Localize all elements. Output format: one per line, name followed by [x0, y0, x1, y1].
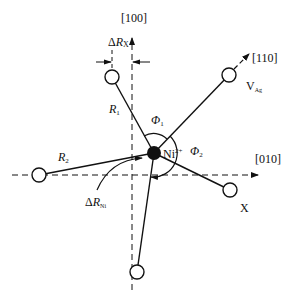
label-phi2: Φ2 [190, 144, 203, 159]
label-vacancy: VAg [246, 79, 262, 93]
site-r2 [32, 168, 46, 182]
bond-vacancy [154, 75, 229, 153]
label-100: [100] [121, 11, 147, 25]
label-x-site: X [240, 201, 249, 215]
center-ni-atom [147, 146, 161, 160]
label-delta-rni: ΔRNi [85, 195, 106, 209]
site-vacancy [222, 68, 236, 82]
phi1-arc [144, 133, 167, 139]
label-phi1: Φ1 [151, 113, 164, 128]
site-r1 [105, 70, 119, 84]
bonds [39, 75, 230, 272]
bond-r2 [39, 153, 154, 175]
axis-110 [234, 54, 249, 69]
label-110: [110] [252, 51, 278, 65]
label-ni-center: Ni2+ [163, 147, 183, 161]
label-r2: R2 [57, 150, 69, 165]
site-bottom [130, 265, 144, 279]
label-010: [010] [255, 152, 281, 166]
label-delta-rx: ΔRX [108, 35, 129, 49]
delta-rx-dimension [96, 50, 150, 70]
label-r1: R1 [108, 102, 120, 117]
defect-diagram: [100] [110] [010] ΔRX R1 R2 Φ1 Φ2 Ni2+ V… [0, 0, 285, 295]
site-x [223, 183, 237, 197]
bond-bottom [137, 153, 154, 272]
